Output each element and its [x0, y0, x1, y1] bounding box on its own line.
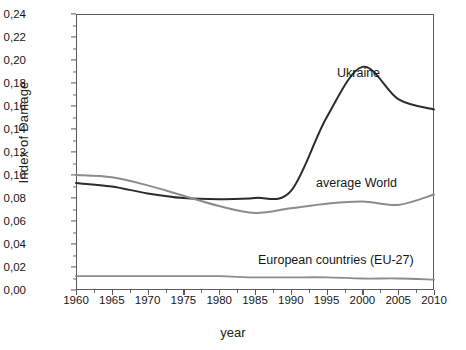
x-axis-title: year: [0, 325, 466, 340]
series-label-ukraine: Ukraine: [337, 66, 380, 80]
series-label-eu27: European countries (EU-27): [258, 253, 414, 267]
line-chart: Index of Damage 0,000,020,040,060,080,10…: [0, 0, 466, 350]
series-line: [76, 276, 434, 280]
series-lines: [0, 0, 466, 350]
series-label-average-world: average World: [316, 176, 397, 190]
